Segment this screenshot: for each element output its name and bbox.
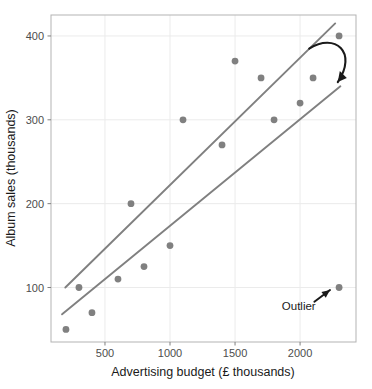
y-tick-label: 100 <box>26 282 44 294</box>
data-point <box>89 309 96 316</box>
data-point <box>271 116 278 123</box>
x-tick-label: 1000 <box>158 347 182 359</box>
y-tick-label: 400 <box>26 30 44 42</box>
data-point <box>310 74 317 81</box>
data-point <box>258 74 265 81</box>
y-axis-title: Album sales (thousands) <box>4 109 18 247</box>
data-point <box>115 276 122 283</box>
data-point <box>219 142 226 149</box>
x-tick-label: 500 <box>96 347 114 359</box>
plot-canvas: 500100015002000 100200300400 Outlier Adv… <box>0 0 372 389</box>
y-tick-label: 200 <box>26 198 44 210</box>
plot-panel-background <box>51 15 356 342</box>
data-point <box>167 242 174 249</box>
y-axis-tick-labels: 100200300400 <box>26 30 44 294</box>
data-point <box>128 200 135 207</box>
data-point <box>141 263 148 270</box>
y-tick-label: 300 <box>26 114 44 126</box>
x-tick-label: 1500 <box>223 347 247 359</box>
data-point <box>336 284 343 291</box>
x-tick-label: 2000 <box>288 347 312 359</box>
outlier-annotation-label: Outlier <box>282 300 316 312</box>
data-point <box>336 33 343 40</box>
x-axis-tick-labels: 500100015002000 <box>96 347 313 359</box>
x-axis-title: Advertising budget (£ thousands) <box>111 365 294 379</box>
data-point <box>297 100 304 107</box>
data-point <box>232 58 239 65</box>
data-point <box>76 284 83 291</box>
scatter-plot-figure: 500100015002000 100200300400 Outlier Adv… <box>0 0 372 389</box>
data-point <box>63 326 70 333</box>
data-point <box>180 116 187 123</box>
